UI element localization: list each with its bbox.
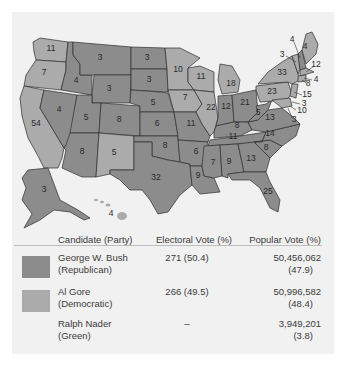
svg-text:13: 13 — [246, 153, 256, 163]
table-divider — [14, 245, 322, 246]
candidate-name: Ralph Nader — [58, 318, 111, 330]
candidate-name: Al Gore — [58, 286, 112, 298]
svg-text:10: 10 — [173, 64, 183, 74]
svg-text:5: 5 — [112, 147, 117, 157]
svg-text:8: 8 — [235, 120, 240, 130]
svg-text:8: 8 — [117, 114, 122, 124]
svg-text:7: 7 — [211, 157, 216, 167]
header-popular: Popular Vote (%) — [249, 234, 321, 245]
candidate-cell: Ralph Nader (Green) — [58, 318, 111, 342]
electoral-map: 11 7 54 4 4 3 3 5 8 8 5 3 3 5 6 8 32 10 … — [0, 0, 343, 232]
svg-text:32: 32 — [151, 172, 161, 182]
popular-vote-pct: (47.9) — [241, 264, 321, 276]
svg-text:4: 4 — [290, 34, 295, 44]
svg-text:8: 8 — [163, 140, 168, 150]
state-ak — [22, 168, 90, 228]
svg-text:4: 4 — [303, 41, 308, 51]
legend-swatch-democratic — [22, 290, 50, 312]
electoral-vote: 271 (50.4) — [157, 252, 217, 263]
legend-swatch-republican — [22, 256, 50, 278]
header-candidate: Candidate (Party) — [58, 234, 132, 245]
svg-text:11: 11 — [187, 118, 196, 128]
svg-text:5: 5 — [84, 112, 89, 122]
state-nj — [290, 84, 298, 98]
svg-text:3: 3 — [98, 52, 103, 62]
svg-text:4: 4 — [109, 208, 114, 218]
svg-text:22: 22 — [206, 102, 216, 112]
electoral-vote: 266 (49.5) — [157, 286, 217, 297]
svg-text:3: 3 — [42, 184, 47, 194]
svg-text:9: 9 — [227, 156, 232, 166]
popular-vote-pct: (48.4) — [241, 298, 321, 310]
svg-text:18: 18 — [226, 78, 236, 88]
svg-text:5: 5 — [151, 97, 156, 107]
svg-text:4: 4 — [314, 74, 319, 84]
svg-text:8: 8 — [306, 78, 311, 88]
svg-text:3: 3 — [292, 114, 297, 124]
svg-text:14: 14 — [265, 128, 275, 138]
svg-text:3: 3 — [107, 83, 112, 93]
svg-text:7: 7 — [183, 92, 188, 102]
svg-text:7: 7 — [42, 67, 47, 77]
popular-vote-cell: 50,996,582 (48.4) — [241, 286, 321, 310]
svg-text:8: 8 — [264, 142, 269, 152]
candidate-party: (Green) — [58, 330, 111, 342]
candidate-name: George W. Bush — [58, 252, 128, 264]
popular-vote: 3,949,201 — [241, 318, 321, 330]
svg-text:12: 12 — [311, 59, 321, 69]
svg-text:25: 25 — [263, 186, 273, 196]
svg-text:5: 5 — [256, 107, 261, 117]
candidate-cell: Al Gore (Democratic) — [58, 286, 112, 310]
header-electoral: Electoral Vote (%) — [156, 234, 232, 245]
popular-vote: 50,456,062 — [241, 252, 321, 264]
svg-text:6: 6 — [155, 118, 160, 128]
state-wy — [92, 75, 131, 103]
svg-text:13: 13 — [265, 112, 275, 122]
svg-text:3: 3 — [147, 74, 152, 84]
state-md — [272, 98, 292, 108]
svg-text:11: 11 — [47, 43, 56, 53]
svg-text:6: 6 — [194, 146, 199, 156]
candidate-party: (Democratic) — [58, 298, 112, 310]
candidate-party: (Republican) — [58, 264, 128, 276]
svg-text:4: 4 — [57, 104, 62, 114]
svg-text:3: 3 — [280, 49, 285, 59]
svg-text:23: 23 — [267, 86, 277, 96]
svg-text:9: 9 — [196, 170, 201, 180]
svg-text:12: 12 — [221, 101, 231, 111]
svg-text:3: 3 — [145, 52, 150, 62]
electoral-vote: – — [157, 318, 217, 329]
svg-text:21: 21 — [240, 97, 250, 107]
popular-vote: 50,996,582 — [241, 286, 321, 298]
svg-text:11: 11 — [229, 131, 238, 141]
svg-text:33: 33 — [277, 67, 287, 77]
svg-text:11: 11 — [197, 71, 206, 81]
svg-text:54: 54 — [31, 118, 41, 128]
popular-vote-cell: 3,949,201 (3.8) — [241, 318, 321, 342]
svg-text:8: 8 — [80, 146, 85, 156]
svg-text:4: 4 — [74, 75, 79, 85]
candidate-cell: George W. Bush (Republican) — [58, 252, 128, 276]
popular-vote-cell: 50,456,062 (47.9) — [241, 252, 321, 276]
popular-vote-pct: (3.8) — [241, 330, 321, 342]
svg-text:10: 10 — [297, 105, 307, 115]
